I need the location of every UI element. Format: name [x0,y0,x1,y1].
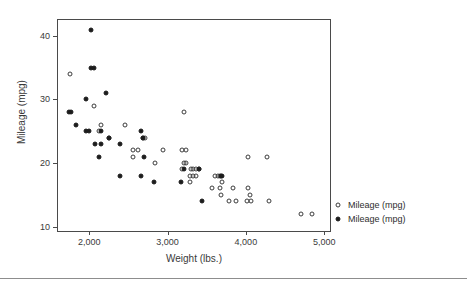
data-point [89,27,94,32]
x-tick-label: 5,000 [313,238,336,247]
data-point [182,167,187,172]
horizontal-divider [0,278,467,279]
data-point [92,65,97,70]
x-tick-mark [246,231,247,235]
data-point [138,173,143,178]
data-point [209,186,214,191]
legend-label: Mileage (mpg) [348,214,406,225]
data-point [266,199,271,204]
x-tick-label: 3,000 [156,238,179,247]
y-tick-label: 20 [40,159,50,168]
data-point [245,186,250,191]
open-circle-icon [336,203,341,208]
data-point [193,173,198,178]
data-point [86,129,91,134]
data-point [98,122,103,127]
data-point [179,180,184,185]
plot-data-area [58,20,330,231]
data-point [265,154,270,159]
y-tick-label: 40 [40,31,50,40]
data-point [233,199,238,204]
legend-label: Mileage (mpg) [348,200,406,211]
data-point [74,122,79,127]
y-tick-label: 30 [40,95,50,104]
data-point [227,199,232,204]
y-tick-mark [53,99,57,100]
data-point [92,103,97,108]
data-point [247,192,252,197]
data-point [122,122,127,127]
y-tick-mark [53,36,57,37]
data-point [249,199,254,204]
y-tick-mark [53,227,57,228]
plot-frame: 10203040 2,0003,0004,0005,000 [57,19,331,232]
x-tick-mark [324,231,325,235]
data-point [138,129,143,134]
data-point [218,186,223,191]
legend-item[interactable]: Mileage (mpg) [336,215,461,226]
data-point [152,180,157,185]
data-point [68,72,73,77]
x-tick-mark [168,231,169,235]
data-point [188,180,193,185]
data-point [230,186,235,191]
data-point [184,148,189,153]
data-point [117,141,122,146]
chart-legend: Mileage (mpg)Mileage (mpg) [336,201,461,229]
x-tick-label: 2,000 [78,238,101,247]
data-point [200,199,205,204]
data-point [152,161,157,166]
y-axis-title: Mileage (mpg) [16,52,28,172]
data-point [220,180,225,185]
legend-item[interactable]: Mileage (mpg) [336,201,461,212]
data-point [118,173,123,178]
x-tick-mark [89,231,90,235]
data-point [182,110,187,115]
data-point [103,91,108,96]
data-point [99,129,104,134]
data-point [96,154,101,159]
data-point [196,167,201,172]
data-point [184,161,189,166]
data-point [131,154,136,159]
data-point [245,154,250,159]
scatter-plot-figure: 10203040 2,0003,0004,0005,000 Weight (lb… [0,0,467,289]
x-axis-title: Weight (lbs.) [57,253,331,265]
data-point [218,192,223,197]
data-point [98,141,103,146]
data-point [309,211,314,216]
data-point [141,135,146,140]
data-point [160,148,165,153]
y-tick-mark [53,163,57,164]
y-tick-label: 10 [40,222,50,231]
data-point [93,141,98,146]
x-tick-label: 4,000 [235,238,258,247]
data-point [220,173,225,178]
data-point [135,148,140,153]
data-point [106,135,111,140]
filled-circle-icon [336,217,341,222]
data-point [142,154,147,159]
data-point [83,97,88,102]
data-point [299,211,304,216]
data-point [68,110,73,115]
